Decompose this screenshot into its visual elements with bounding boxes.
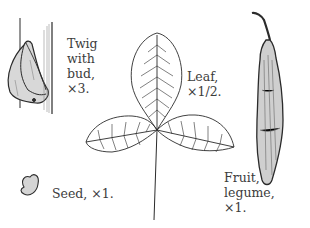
fruit-label: Fruit, legume, ×1. (224, 170, 275, 215)
terminal-leaflet (131, 33, 182, 130)
bud (8, 41, 48, 103)
twig-label: Twig with bud, ×3. (67, 36, 98, 96)
left-leaflet (86, 116, 157, 152)
twig-with-bud-drawing (8, 18, 52, 114)
leaf-label-line: ×1/2. (187, 84, 222, 99)
seed-shape (21, 175, 38, 195)
twig-label-line: ×3. (67, 81, 98, 96)
leaf-label: Leaf, ×1/2. (187, 69, 222, 99)
pod-stalk (252, 13, 270, 40)
fruit-label-line: ×1. (224, 200, 275, 215)
legume-pod-drawing (252, 13, 283, 185)
seed-label: Seed, ×1. (52, 186, 114, 201)
leaf-scar (33, 99, 36, 102)
seed-drawing (21, 175, 38, 195)
leaf-label-line: Leaf, (187, 69, 222, 84)
petiole (154, 130, 157, 220)
fruit-label-line: legume, (224, 185, 275, 200)
twig-label-line: with (67, 51, 98, 66)
fruit-label-line: Fruit, (224, 170, 275, 185)
twig-label-line: Twig (67, 36, 98, 51)
twig-label-line: bud, (67, 66, 98, 81)
seed-label-text: Seed, ×1. (52, 186, 114, 201)
